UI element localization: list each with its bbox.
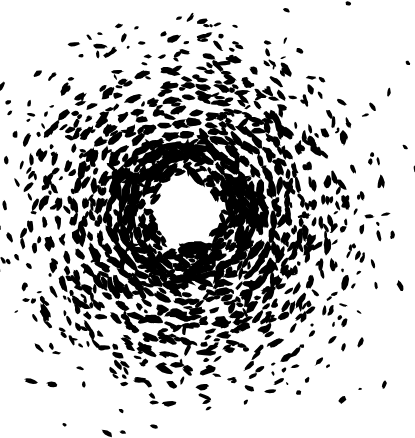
laue-diffraction-pattern-canvas [0,0,415,438]
diffraction-pattern-page: Laue X-ray diffraction pattern Dense six… [0,0,415,438]
